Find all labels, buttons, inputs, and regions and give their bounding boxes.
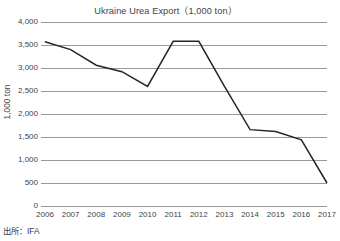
y-tick-label: 0: [0, 202, 38, 210]
source-note: 出所：IFA: [3, 224, 40, 236]
y-tick-label: 1,000: [0, 156, 38, 164]
x-tick-label: 2014: [237, 211, 263, 219]
y-tick-label: 3,000: [0, 64, 38, 72]
y-tick-label: 2,000: [0, 110, 38, 118]
x-tick-label: 2006: [32, 211, 58, 219]
x-tick-label: 2017: [314, 211, 340, 219]
x-tick-label: 2016: [289, 211, 315, 219]
y-tick-label: 1,500: [0, 133, 38, 141]
x-tick-label: 2008: [83, 211, 109, 219]
x-tick-label: 2007: [58, 211, 84, 219]
x-tick-label: 2013: [212, 211, 238, 219]
x-tick-label: 2012: [186, 211, 212, 219]
data-series-line: [45, 41, 327, 183]
x-tick-label: 2015: [263, 211, 289, 219]
x-tick-label: 2010: [135, 211, 161, 219]
x-tick-label: 2009: [109, 211, 135, 219]
y-tick-marks-group: [41, 23, 45, 207]
x-tick-label: 2011: [160, 211, 186, 219]
y-tick-label: 4,000: [0, 18, 38, 26]
y-tick-label: 500: [0, 179, 38, 187]
y-tick-label: 3,500: [0, 41, 38, 49]
y-tick-label: 2,500: [0, 87, 38, 95]
gridlines-group: [45, 23, 327, 207]
